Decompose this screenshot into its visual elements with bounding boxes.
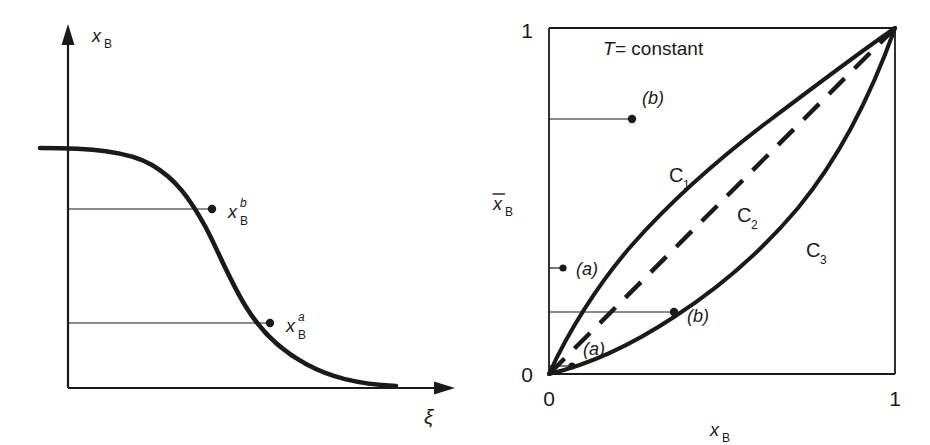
curve-c1-label-subscript: 1 xyxy=(683,178,690,192)
left-point-upper-label-superscript: b xyxy=(240,196,247,210)
right-point-upper-a-label: (a) xyxy=(576,259,598,279)
right-point-lower-a-label: (a) xyxy=(583,339,605,359)
left-point-lower-label-base: x xyxy=(285,316,296,336)
left-point-upper-label: x B b xyxy=(227,196,248,228)
right-panel: T = constant C 1 C 2 C 3 (b) (a) (b) (a) xyxy=(465,0,930,445)
right-panel-svg: T = constant C 1 C 2 C 3 (b) (a) (b) (a) xyxy=(465,0,930,445)
curve-c2-label: C 2 xyxy=(737,204,758,232)
curve-c2-dashed xyxy=(549,28,895,374)
left-point-upper-label-base: x xyxy=(227,202,238,222)
right-x-axis-label-base: x xyxy=(709,420,720,440)
right-point-lower-b-marker xyxy=(670,308,678,316)
right-y-axis-label-base: x xyxy=(492,194,503,214)
curve-c3-label: C 3 xyxy=(806,239,827,267)
left-point-lower-marker xyxy=(266,319,274,327)
left-panel: x B ξ x B b x B a xyxy=(0,0,465,445)
left-panel-svg: x B ξ x B b x B a xyxy=(0,0,465,445)
right-x-tick-max: 1 xyxy=(889,387,901,410)
right-y-axis-label-subscript: B xyxy=(505,205,513,219)
right-x-tick-min: 0 xyxy=(543,387,555,410)
left-point-upper-marker xyxy=(208,205,216,213)
left-point-lower-label-subscript: B xyxy=(298,328,306,342)
left-x-axis-arrowhead xyxy=(434,382,455,395)
right-annotation-rest: = constant xyxy=(615,38,704,59)
left-x-axis-label: ξ xyxy=(424,405,435,428)
left-y-axis-label-subscript: B xyxy=(104,37,112,51)
curve-c1-label-base: C xyxy=(669,164,683,186)
left-point-upper-label-subscript: B xyxy=(240,214,248,228)
right-point-lower-b-label: (b) xyxy=(687,306,709,326)
right-x-axis-label: x B xyxy=(709,420,730,445)
right-y-tick-max: 1 xyxy=(521,19,533,42)
left-point-lower-label-superscript: a xyxy=(298,310,305,324)
left-point-lower-label: x B a xyxy=(285,310,306,342)
left-y-axis-arrowhead xyxy=(62,24,75,45)
right-point-upper-a-marker xyxy=(559,264,566,271)
left-y-axis xyxy=(62,24,75,388)
right-point-lower-a-marker xyxy=(568,362,575,369)
right-y-axis-label: x B xyxy=(492,194,513,219)
curve-c3-label-base: C xyxy=(806,239,820,261)
right-x-axis-label-subscript: B xyxy=(722,431,730,445)
right-annotation-temperature: T = constant xyxy=(603,38,704,59)
curve-c3-label-subscript: 3 xyxy=(820,253,827,267)
right-point-upper-b-label: (b) xyxy=(642,88,664,108)
figure-root: x B ξ x B b x B a xyxy=(0,0,930,445)
right-y-tick-min: 0 xyxy=(521,363,533,386)
curve-c2-label-subscript: 2 xyxy=(751,218,758,232)
curve-c1-label: C 1 xyxy=(669,164,690,192)
left-sigmoid-curve xyxy=(40,148,396,386)
right-point-upper-b-marker xyxy=(628,115,636,123)
curve-c2-label-base: C xyxy=(737,204,751,226)
left-y-axis-label: x xyxy=(91,26,102,46)
